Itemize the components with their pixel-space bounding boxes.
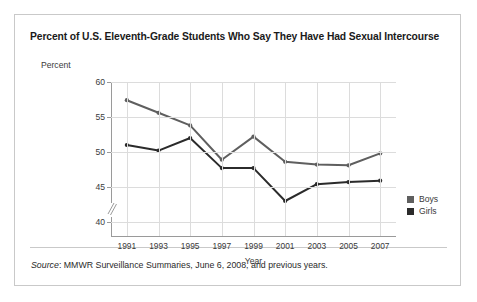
y-axis-tick-mark (107, 152, 111, 153)
chart-title: Percent of U.S. Eleventh-Grade Students … (30, 30, 450, 43)
y-axis-tick-label: 40 (79, 217, 105, 227)
gridline-vertical (254, 82, 255, 236)
y-axis-tick-label: 55 (79, 112, 105, 122)
legend-label: Girls (419, 206, 437, 216)
figure-card: Percent of U.S. Eleventh-Grade Students … (14, 14, 461, 286)
y-axis-tick-label: 45 (79, 182, 105, 192)
gridline-vertical (190, 82, 191, 236)
gridline-vertical (222, 82, 223, 236)
gridline-vertical (317, 82, 318, 236)
x-axis-tick-label: 2007 (360, 241, 400, 251)
legend-item-girls: Girls (407, 205, 438, 217)
y-axis-tick-mark (107, 222, 111, 223)
legend: BoysGirls (407, 193, 438, 217)
y-axis-tick-mark (107, 82, 111, 83)
gridline-vertical (159, 82, 160, 236)
x-axis-line (111, 236, 396, 237)
legend-label: Boys (419, 194, 438, 204)
source-text: : MMWR Surveillance Summaries, June 6, 2… (59, 260, 328, 270)
gridline-vertical (380, 82, 381, 236)
gridline-vertical (127, 82, 128, 236)
y-axis-tick-label: 50 (79, 147, 105, 157)
source-word: Source (31, 260, 59, 270)
legend-swatch-icon (407, 208, 414, 215)
gridline-vertical (285, 82, 286, 236)
y-axis-tick-mark (107, 187, 111, 188)
y-axis-tick-label: 60 (79, 77, 105, 87)
y-axis-tick-mark (107, 117, 111, 118)
y-axis-tick-labels: 4045505560 (77, 82, 105, 236)
gridline-vertical (349, 82, 350, 236)
source-note: Source: MMWR Surveillance Summaries, Jun… (31, 260, 328, 270)
legend-swatch-icon (407, 196, 414, 203)
legend-item-boys: Boys (407, 193, 438, 205)
plot-area (111, 82, 396, 236)
y-axis-label: Percent (41, 60, 71, 70)
